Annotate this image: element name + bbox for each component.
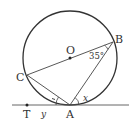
label-c: C	[16, 71, 24, 84]
point-t	[26, 104, 29, 107]
label-t: T	[23, 108, 31, 121]
label-b: B	[115, 33, 123, 46]
label-a: A	[65, 108, 75, 121]
label-o: O	[66, 44, 75, 57]
label-angle-x: x	[83, 93, 88, 103]
angle-arc-b	[105, 45, 108, 49]
label-angle-b: 35°	[89, 51, 104, 61]
geometry-diagram: O B C A T 35° x y	[0, 0, 134, 127]
label-angle-y: y	[40, 109, 47, 119]
angle-tick-y	[52, 99, 55, 100]
